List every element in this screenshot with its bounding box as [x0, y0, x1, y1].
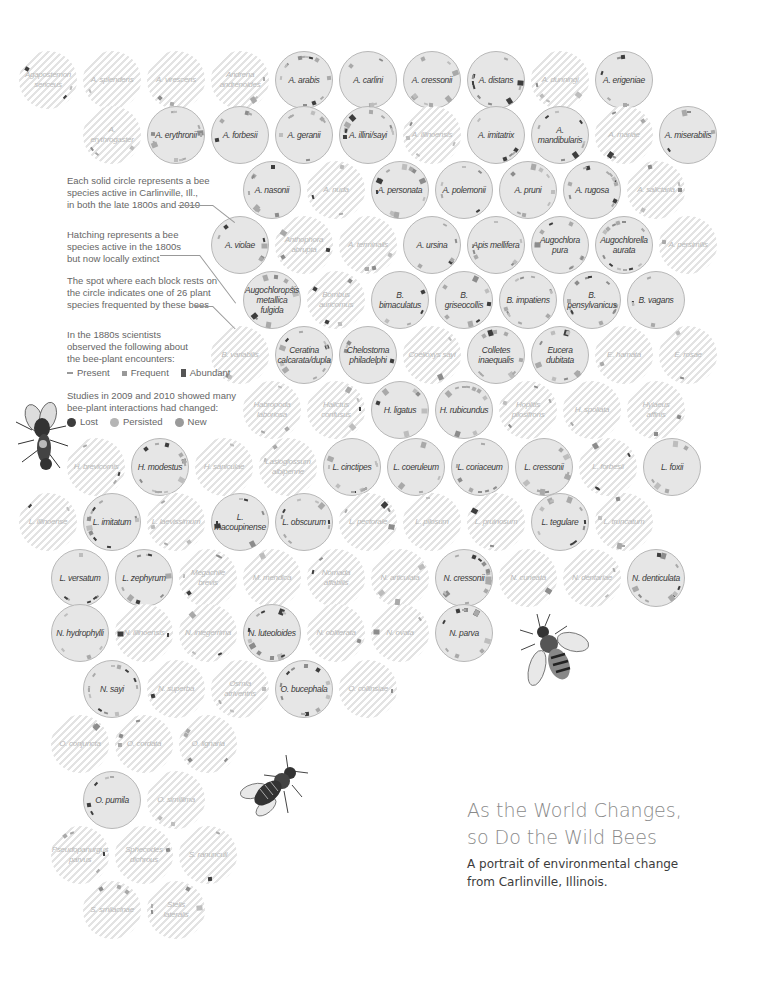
interaction-mark	[288, 540, 292, 544]
interaction-mark	[200, 133, 202, 137]
interaction-mark	[508, 424, 512, 428]
interaction-mark	[477, 95, 481, 99]
interaction-mark	[473, 254, 478, 259]
interaction-mark	[445, 95, 453, 103]
interaction-mark	[208, 877, 212, 881]
interaction-mark	[345, 509, 349, 513]
legend-studies: Studies in 2009 and 2010 showed many bee…	[67, 390, 236, 428]
interaction-mark	[327, 76, 331, 80]
interaction-mark	[224, 758, 228, 762]
species-circle: Colletes inaequalis	[467, 326, 525, 384]
species-circle: A. dunningi	[531, 51, 589, 109]
legend-observed: In the 1880s scientists observed the fol…	[67, 329, 230, 379]
species-label: A. illinoensis	[409, 130, 455, 140]
interaction-mark	[315, 707, 321, 713]
interaction-mark	[424, 102, 428, 105]
species-label: A. splendens	[88, 75, 137, 85]
interaction-mark	[592, 443, 599, 451]
interaction-mark	[429, 103, 433, 107]
title-block: As the World Changes, so Do the Wild Bee…	[467, 797, 682, 891]
interaction-mark	[569, 222, 574, 227]
species-circle: Anthophora abrupta	[275, 216, 333, 274]
interaction-mark	[562, 453, 570, 460]
species-circle: Augochloropsis metallica fulgida	[243, 271, 301, 329]
species-label: L. imitatum	[90, 517, 134, 527]
species-circle: Sphecodes dichrous	[115, 826, 173, 884]
species-label: H. spoliata	[572, 405, 613, 415]
interaction-mark	[627, 453, 631, 457]
species-circle: B. impatiens	[499, 271, 557, 329]
species-circle: A. salictaria	[627, 161, 685, 219]
interaction-mark	[612, 111, 616, 114]
species-label: A. miserabilis	[662, 130, 714, 140]
interaction-mark	[281, 654, 285, 657]
page-title: As the World Changes, so Do the Wild Bee…	[467, 797, 682, 851]
interaction-mark	[531, 164, 537, 171]
interaction-mark	[117, 885, 122, 890]
species-circle: E. rosae	[659, 326, 717, 384]
species-circle: N. cressonii	[435, 549, 493, 607]
interaction-mark	[617, 268, 621, 271]
species-circle: L. imitatum	[83, 493, 141, 551]
interaction-mark	[468, 487, 473, 492]
interaction-mark	[306, 159, 310, 162]
interaction-mark	[504, 331, 509, 336]
interaction-mark	[88, 694, 91, 698]
species-label: A. ursina	[414, 240, 451, 250]
species-label: O. cordata	[124, 739, 164, 749]
legend-persisted-label: Persisted	[123, 416, 163, 428]
interaction-mark	[171, 822, 175, 826]
interaction-mark	[272, 444, 278, 450]
interaction-mark	[349, 114, 357, 122]
species-label: N. hydrophylli	[53, 628, 106, 638]
species-label: A. erigeniae	[600, 75, 648, 85]
species-label: B. vagans	[635, 295, 676, 305]
species-label: B. bimaculatus	[372, 290, 428, 310]
interaction-mark	[644, 599, 648, 603]
species-label: Coelioxys sayi	[406, 350, 459, 360]
species-label: Hoplitis pilosifrons	[509, 400, 548, 420]
interaction-mark	[673, 441, 679, 447]
interaction-mark	[165, 848, 170, 853]
interaction-mark	[535, 83, 538, 87]
interaction-mark	[363, 487, 367, 491]
species-label: L. cinctipes	[330, 462, 375, 472]
interaction-mark	[339, 164, 344, 169]
species-label: L. tegulare	[539, 517, 582, 527]
interaction-mark	[305, 56, 309, 58]
legend-hatch-text: Hatching represents a bee species active…	[67, 229, 181, 265]
interaction-mark	[555, 111, 559, 114]
interaction-mark	[127, 594, 135, 602]
interaction-mark	[395, 599, 401, 606]
species-circle: L. cinctipes	[323, 438, 381, 496]
interaction-mark	[613, 567, 616, 571]
interaction-mark	[466, 386, 470, 389]
species-circle: A. illinoensis	[403, 106, 461, 164]
interaction-mark	[262, 687, 266, 691]
interaction-mark	[506, 97, 513, 105]
interaction-mark	[579, 120, 583, 124]
interaction-mark	[588, 276, 592, 278]
interaction-mark	[561, 159, 565, 161]
interaction-mark	[373, 103, 377, 106]
interaction-mark	[462, 386, 466, 388]
interaction-mark	[473, 430, 478, 435]
interaction-mark	[487, 329, 494, 336]
species-label: N. denticulata	[629, 573, 683, 583]
species-label: Agapostemon sericeus	[22, 70, 74, 90]
interaction-mark	[157, 95, 163, 101]
interaction-mark	[379, 58, 383, 62]
interaction-mark	[286, 671, 290, 675]
interaction-mark	[92, 673, 96, 677]
interaction-mark	[444, 314, 450, 320]
interaction-mark	[183, 574, 185, 578]
interaction-mark	[283, 534, 287, 538]
species-circle: Chelostoma philadelphi	[339, 326, 397, 384]
interaction-mark	[677, 586, 680, 590]
interaction-mark	[687, 111, 691, 113]
interaction-mark	[623, 103, 627, 107]
interaction-mark	[579, 507, 583, 511]
interaction-mark	[660, 552, 666, 559]
species-label: Hylaeus affinis	[640, 400, 673, 420]
legend-present-label: Present	[77, 367, 110, 379]
